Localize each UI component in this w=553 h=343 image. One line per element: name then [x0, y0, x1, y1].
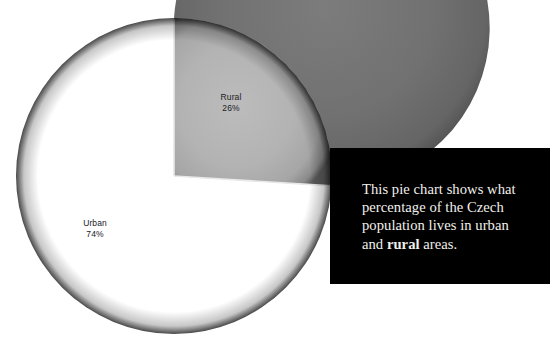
caption-line-2: percentage of the Czech	[362, 199, 504, 215]
pie-label-rural: Rural 26%	[196, 92, 266, 114]
caption-box: This pie chart shows what percentage of …	[330, 148, 550, 284]
caption-text: This pie chart shows what percentage of …	[362, 180, 534, 253]
pie-label-urban-percent: 74%	[60, 229, 130, 240]
pie-label-rural-percent: 26%	[196, 103, 266, 114]
pie-label-rural-name: Rural	[196, 92, 266, 103]
caption-line-4-suffix: areas.	[420, 236, 458, 252]
chart-canvas: Rural 26% Urban 74% This pie chart shows…	[0, 0, 553, 343]
pie-label-urban-name: Urban	[60, 218, 130, 229]
pie-label-urban: Urban 74%	[60, 218, 130, 240]
caption-line-3: population lives in urban	[362, 217, 509, 233]
caption-line-1: This pie chart shows what	[362, 181, 516, 197]
pie-rim-shading	[16, 18, 332, 334]
caption-line-4-prefix: and	[362, 236, 387, 252]
caption-line-4-bold: rural	[387, 236, 420, 252]
